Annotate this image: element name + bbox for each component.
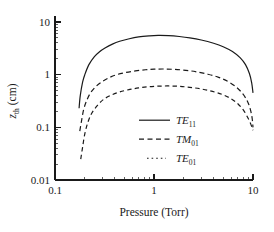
y-axis-title-unit: (cm)	[6, 83, 19, 108]
x-axis-title: Pressure (Torr)	[119, 206, 188, 219]
x-tick-label: 0.1	[48, 184, 62, 196]
z-th-vs-pressure-chart: 0.1110 0.010.1110 Pressure (Torr) zth (c…	[0, 0, 274, 232]
y-tick-label: 0.01	[31, 174, 50, 186]
x-tick-label: 10	[248, 184, 260, 196]
x-tick-label: 1	[151, 184, 157, 196]
y-tick-label: 1	[45, 68, 51, 80]
x-axis-title-text: Pressure (Torr)	[119, 206, 188, 219]
chart-figure: 0.1110 0.010.1110 Pressure (Torr) zth (c…	[0, 0, 274, 232]
y-tick-label: 0.1	[36, 121, 50, 133]
y-tick-label: 10	[39, 16, 51, 28]
chart-background	[0, 0, 274, 232]
